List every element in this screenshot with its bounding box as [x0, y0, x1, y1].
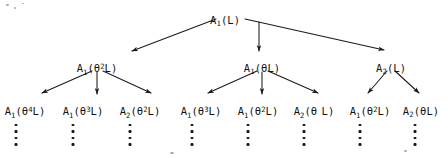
- ellipsis-dot: [72, 143, 74, 145]
- ellipsis-dot: [414, 130, 416, 132]
- vertical-ellipsis: [414, 124, 417, 146]
- ellipsis-dot: [129, 143, 131, 145]
- ellipsis-dot: [359, 124, 361, 126]
- node-close-paren: ): [215, 105, 221, 117]
- ellipsis-dot: [191, 124, 193, 126]
- node-close-paren: ): [274, 62, 280, 74]
- ellipsis-dot: [247, 130, 249, 132]
- node-close-paren: ): [400, 62, 406, 74]
- ellipsis-dot: [303, 124, 305, 126]
- vertical-ellipsis: [191, 124, 194, 146]
- ellipsis-dot: [359, 130, 361, 132]
- vertical-ellipsis: [359, 124, 362, 146]
- tree-diagram: A1(L)A1(θ2L)A1(θL)A2(L)A1(θ4L)A1(θ3L)A2(…: [0, 0, 448, 158]
- ellipsis-dot: [359, 143, 361, 145]
- tree-node-n2-3: A2(L): [376, 62, 406, 76]
- paper-speck: [404, 150, 407, 152]
- tree-node-n3-1: A1(θ4L): [5, 105, 46, 120]
- ellipsis-dot: [191, 130, 193, 132]
- node-close-paren: ): [433, 105, 439, 117]
- ellipsis-dot: [72, 137, 74, 139]
- ellipsis-dot: [414, 143, 416, 145]
- vertical-ellipsis: [129, 124, 132, 146]
- ellipsis-dot: [247, 143, 249, 145]
- tree-node-n3-7: A1(θ2L): [350, 105, 391, 120]
- tree-node-n3-4: A1(θ3L): [181, 105, 222, 120]
- ellipsis-dot: [72, 124, 74, 126]
- ellipsis-dot: [15, 143, 17, 145]
- ellipsis-dot: [414, 137, 416, 139]
- node-close-paren: ): [97, 105, 103, 117]
- tree-node-root: A1(L): [210, 14, 240, 28]
- ellipsis-dot: [303, 130, 305, 132]
- node-close-paren: ): [384, 105, 390, 117]
- ellipsis-dot: [129, 130, 131, 132]
- ellipsis-dot: [414, 124, 416, 126]
- ellipsis-dot: [191, 143, 193, 145]
- tree-node-n3-5: A1(θ2L): [238, 105, 279, 120]
- vertical-ellipsis: [247, 124, 250, 146]
- vertical-ellipsis: [15, 124, 18, 146]
- tree-edge-arrow: [245, 19, 384, 50]
- tree-node-n3-6: A2(θ L): [294, 105, 335, 120]
- ellipsis-dot: [191, 137, 193, 139]
- node-operator-theta: θ: [311, 105, 317, 117]
- paper-speck: [6, 4, 9, 6]
- node-close-paren: ): [234, 14, 240, 26]
- tree-node-n2-2: A1(θL): [244, 62, 280, 76]
- paper-speck: [22, 3, 24, 4]
- ellipsis-dot: [247, 137, 249, 139]
- tree-edge-arrow: [132, 19, 216, 51]
- vertical-ellipsis: [303, 124, 306, 146]
- ellipsis-dot: [303, 143, 305, 145]
- tree-node-n2-1: A1(θ2L): [77, 62, 118, 77]
- node-close-paren: ): [154, 105, 160, 117]
- ellipsis-dot: [15, 130, 17, 132]
- ellipsis-dot: [303, 137, 305, 139]
- node-close-paren: ): [272, 105, 278, 117]
- paper-speck: [14, 7, 16, 9]
- node-close-paren: ): [328, 105, 334, 117]
- ellipsis-dot: [15, 124, 17, 126]
- node-close-paren: ): [111, 62, 117, 74]
- ellipsis-dot: [359, 137, 361, 139]
- node-close-paren: ): [39, 105, 45, 117]
- vertical-ellipsis: [72, 124, 75, 146]
- ellipsis-dot: [129, 124, 131, 126]
- ellipsis-dot: [247, 124, 249, 126]
- tree-node-n3-8: A2(θL): [403, 105, 439, 119]
- ellipsis-dot: [72, 130, 74, 132]
- paper-speck: [170, 152, 174, 154]
- ellipsis-dot: [129, 137, 131, 139]
- tree-node-n3-3: A2(θ2L): [120, 105, 161, 120]
- tree-node-n3-2: A1(θ3L): [63, 105, 104, 120]
- ellipsis-dot: [15, 137, 17, 139]
